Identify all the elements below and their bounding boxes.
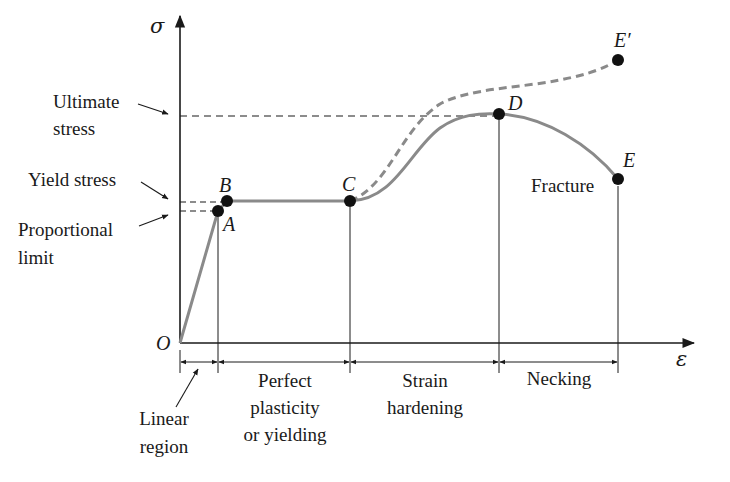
point-d (493, 108, 505, 120)
y-axis-label: σ (150, 14, 165, 38)
plasticity-label-1: Perfect (258, 370, 313, 391)
point-e (612, 173, 624, 185)
linear-region-label-1: Linear (139, 408, 189, 429)
stress-strain-diagram: σ ε O A B C D E E′ Fracture Ultimate str… (0, 0, 730, 482)
point-e-prime (612, 54, 624, 66)
proportional-limit-label-2: limit (18, 247, 55, 268)
necking-label: Necking (527, 368, 592, 389)
label-d: D (507, 92, 523, 114)
plasticity-label-2: plasticity (250, 397, 320, 418)
ultimate-stress-label-1: Ultimate (53, 91, 119, 112)
label-c: C (342, 173, 356, 195)
hardening-label-2: hardening (387, 397, 463, 418)
linear-region-arrow (176, 369, 198, 407)
point-b (221, 195, 233, 207)
ultimate-stress-label-2: stress (53, 118, 95, 139)
label-e: E (622, 149, 635, 171)
x-axis-label: ε (676, 347, 687, 371)
label-e-prime: E′ (613, 29, 631, 51)
point-c (344, 195, 356, 207)
yield-stress-arrow (141, 182, 168, 199)
plasticity-label-3: or yielding (244, 424, 327, 445)
label-a: A (221, 213, 236, 235)
ultimate-stress-arrow (138, 104, 168, 114)
fracture-label: Fracture (531, 175, 594, 196)
proportional-limit-arrow (139, 215, 168, 226)
engineering-curve (180, 114, 618, 343)
label-b: B (219, 174, 231, 196)
linear-region-label-2: region (140, 436, 189, 457)
proportional-limit-label-1: Proportional (18, 219, 113, 240)
yield-stress-label: Yield stress (28, 169, 116, 190)
hardening-label-1: Strain (402, 370, 448, 391)
origin-label: O (156, 332, 170, 354)
